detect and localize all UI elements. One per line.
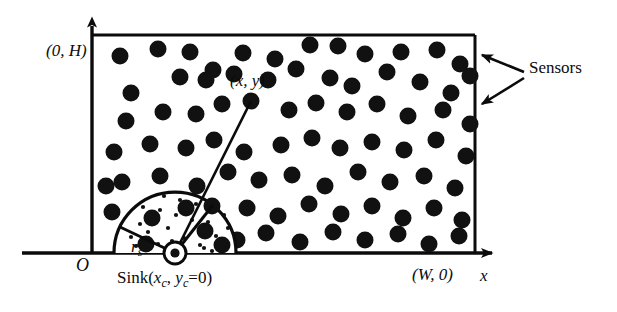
range-speckle <box>162 194 166 198</box>
sensors-callout-arrows <box>482 55 524 104</box>
sensor-node <box>302 37 319 54</box>
sensor-node <box>451 228 468 245</box>
figure-canvas: (0, H) (x, y) O rs Sink(xc, yc=0) (W, 0)… <box>0 0 617 312</box>
sensing-radius-subscript: s <box>138 245 143 259</box>
sensor-node <box>236 144 253 161</box>
sensor-node <box>182 44 199 61</box>
sensor-node <box>142 136 159 153</box>
sensor-node <box>104 204 121 221</box>
sensor-node <box>281 102 298 119</box>
sensor-node <box>390 226 407 243</box>
sensor-node <box>98 178 115 195</box>
sensor-node <box>288 61 305 78</box>
label-sink: Sink(xc, yc=0) <box>117 268 212 291</box>
sensor-node <box>267 51 284 68</box>
sensor-node <box>344 78 361 95</box>
label-origin: O <box>76 255 89 276</box>
sink-y-symbol: y <box>175 268 183 287</box>
sensor-node <box>400 108 417 125</box>
range-speckle <box>198 243 202 247</box>
range-speckle <box>138 222 142 226</box>
sensor-node <box>350 164 367 181</box>
range-speckle <box>141 205 145 209</box>
range-speckle <box>222 213 226 217</box>
sensor-node <box>382 174 399 191</box>
sensor-node <box>214 96 231 113</box>
range-speckle <box>210 249 214 253</box>
sensor-node-in-range <box>144 210 161 227</box>
sensor-node-in-range <box>197 223 214 240</box>
range-speckle <box>166 226 170 230</box>
sink-node <box>164 242 186 264</box>
range-speckle <box>214 234 218 238</box>
sensor-node <box>443 85 460 102</box>
sensing-radius-symbol: r <box>131 237 138 256</box>
sensor-node <box>435 102 452 119</box>
sensor-node <box>325 224 342 241</box>
label-node-xy: (x, y) <box>230 71 265 91</box>
range-speckle <box>174 213 178 217</box>
sink-suffix: =0) <box>188 268 212 287</box>
sensor-node <box>447 180 464 197</box>
sensor-node <box>106 144 123 161</box>
sensor-node <box>364 134 381 151</box>
sensor-node <box>426 200 443 217</box>
sensor-node <box>292 234 309 251</box>
range-speckle <box>202 246 206 250</box>
sensor-node <box>251 172 268 189</box>
sensor-node <box>332 140 349 157</box>
sensor-node <box>421 236 438 253</box>
sensor-node <box>118 113 135 130</box>
network-field-diagram <box>0 0 617 312</box>
sensor-node <box>322 70 339 87</box>
sensor-node <box>198 72 215 89</box>
sensor-node <box>364 198 381 215</box>
sensor-node <box>188 106 205 123</box>
sensor-node <box>379 64 396 81</box>
sensor-node <box>155 104 172 121</box>
sensor-node <box>396 142 413 159</box>
sensor-node <box>462 116 479 133</box>
sensor-node <box>308 95 325 112</box>
sensor-node <box>206 132 223 149</box>
sensor-node <box>235 45 252 62</box>
sensor-node <box>330 38 347 55</box>
sensor-node <box>301 196 318 213</box>
sensor-node <box>462 68 479 85</box>
sensor-node-in-range <box>178 200 195 217</box>
sensor-node <box>339 104 356 121</box>
sensor-node <box>273 137 290 154</box>
sensor-node <box>152 168 169 185</box>
sensor-node <box>429 42 446 59</box>
sensor-node <box>317 178 334 195</box>
sensor-node <box>220 164 237 181</box>
range-speckle <box>146 230 150 234</box>
sensor-node <box>428 132 445 149</box>
sensor-node <box>393 44 410 61</box>
sensor-node <box>333 206 350 223</box>
label-x-axis: x <box>480 266 488 286</box>
sensor-node <box>458 148 475 165</box>
sensor-node <box>258 225 275 242</box>
sensor-node <box>416 168 433 185</box>
sensor-node <box>395 210 412 227</box>
sensor-node <box>112 48 129 65</box>
sensor-node <box>270 208 287 225</box>
range-speckle <box>226 226 230 230</box>
sink-prefix: Sink( <box>117 268 154 287</box>
sensor-node <box>178 140 195 157</box>
label-sensors: Sensors <box>529 58 582 78</box>
sensor-node <box>369 96 386 113</box>
sensor-node <box>172 69 189 86</box>
sensor-node <box>357 232 374 249</box>
label-bottom-right-corner: (W, 0) <box>412 265 453 285</box>
sensor-node <box>357 46 374 63</box>
sensor-node <box>150 41 167 58</box>
axes-group <box>22 26 492 253</box>
sensor-node <box>284 167 301 184</box>
range-speckle <box>158 208 162 212</box>
sensor-node-in-range <box>214 237 231 254</box>
label-top-left-corner: (0, H) <box>46 41 87 61</box>
sensor-node <box>189 178 206 195</box>
sensor-node <box>412 74 429 91</box>
